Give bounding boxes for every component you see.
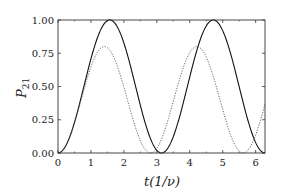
series-detuned-line bbox=[58, 47, 265, 153]
x-tick-label: 3 bbox=[154, 157, 160, 168]
x-axis-label: t(1/ν) bbox=[144, 174, 180, 189]
x-tick-label: 1 bbox=[88, 157, 94, 168]
chart: 01234560.000.250.500.751.00 t(1/ν) P21 bbox=[0, 0, 281, 195]
y-tick-label: 0.50 bbox=[32, 81, 54, 92]
y-tick-label: 0.75 bbox=[32, 48, 54, 59]
x-tick-label: 5 bbox=[220, 157, 226, 168]
y-tick-label: 0.25 bbox=[32, 114, 54, 125]
series-resonant-line bbox=[58, 20, 265, 153]
x-tick-label: 4 bbox=[187, 157, 193, 168]
x-tick-label: 0 bbox=[55, 157, 61, 168]
x-tick-label: 6 bbox=[252, 157, 258, 168]
y-tick-label: 1.00 bbox=[32, 15, 54, 26]
plot-frame bbox=[58, 20, 265, 153]
y-axis-label: P21 bbox=[14, 78, 31, 99]
x-tick-label: 2 bbox=[121, 157, 127, 168]
y-tick-label: 0.00 bbox=[32, 148, 54, 159]
series-layer bbox=[58, 20, 265, 153]
